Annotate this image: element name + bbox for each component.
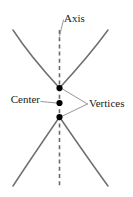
hyperbola-diagram-canvas: Axis Center Vertices — [0, 0, 133, 197]
hyperbola-figure: Axis Center Vertices — [0, 0, 133, 197]
lower-vertex-point — [56, 114, 62, 120]
center-point — [56, 100, 62, 106]
vertices-label: Vertices — [89, 97, 124, 109]
center-label: Center — [11, 93, 41, 105]
upper-vertex-point — [56, 85, 62, 91]
axis-label: Axis — [64, 12, 85, 24]
